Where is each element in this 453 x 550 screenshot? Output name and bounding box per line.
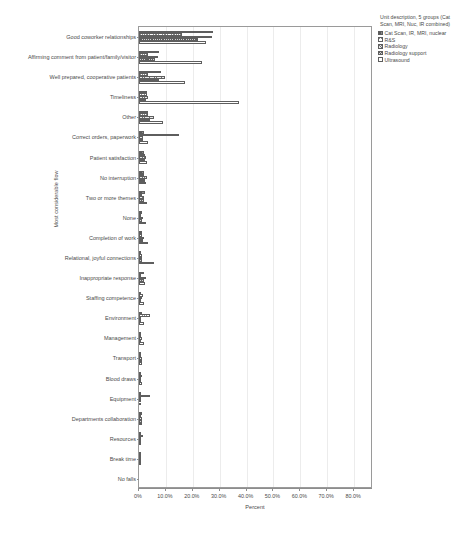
- category-row: Departments collaboration: [139, 409, 371, 429]
- bar-group: [139, 409, 371, 429]
- x-axis-tick-label: 70.0%: [319, 493, 334, 499]
- bar: [139, 342, 144, 345]
- bar: [139, 61, 202, 64]
- category-row: Good coworker relationships: [139, 27, 371, 47]
- bar-group: [139, 228, 371, 248]
- x-axis-tick: [219, 488, 220, 491]
- bar-group: [139, 268, 371, 288]
- bar: [139, 134, 179, 137]
- category-row: No falls: [139, 469, 371, 489]
- category-row: Transport: [139, 348, 371, 368]
- bar: [139, 443, 141, 446]
- bar: [139, 121, 163, 124]
- legend-swatch-icon: [378, 44, 383, 49]
- category-row: Break time: [139, 449, 371, 469]
- y-axis-tick-label: Staffing competence: [12, 295, 136, 302]
- y-axis-tick-label: Relational, joyful connections: [12, 255, 136, 262]
- figure-caption: [8, 538, 308, 548]
- x-axis-tick: [299, 488, 300, 491]
- category-row: Equipment: [139, 389, 371, 409]
- bar-group: [139, 449, 371, 469]
- bar: [139, 41, 206, 44]
- legend-title: Unit description, 5 groups (Cat Scan, MR…: [378, 14, 452, 27]
- bar: [139, 161, 147, 164]
- x-axis-tick-label: 40.0%: [238, 493, 253, 499]
- y-axis-tick-label: No falls: [12, 476, 136, 483]
- legend-item: Cat Scan, IR, MRI, nuclear: [378, 30, 452, 36]
- x-axis-tick: [246, 488, 247, 491]
- legend-item: Radiology: [378, 43, 452, 49]
- bar: [139, 322, 144, 325]
- bar-group: [139, 248, 371, 268]
- y-axis-tick-label: Completion of work: [12, 235, 136, 242]
- bar: [139, 382, 142, 385]
- x-axis-tick-label: 20.0%: [184, 493, 199, 499]
- legend-item: Radiology support: [378, 50, 452, 56]
- bar: [139, 141, 148, 144]
- bar-group: [139, 429, 371, 449]
- legend: Unit description, 5 groups (Cat Scan, MR…: [378, 14, 452, 63]
- y-axis-tick-label: Affirming comment from patient/family/vi…: [12, 54, 136, 61]
- category-row: Resources: [139, 429, 371, 449]
- bar: [139, 403, 141, 406]
- bar-group: [139, 368, 371, 388]
- x-axis: 0%10.0%20.0%30.0%40.0%50.0%60.0%70.0%80.…: [138, 488, 372, 489]
- y-axis-tick-label: Two or more themes: [12, 194, 136, 201]
- bar-group: [139, 469, 371, 489]
- category-row: Well prepared, cooperative patients: [139, 67, 371, 87]
- chart-figure: Most considerable flow Good coworker rel…: [0, 0, 453, 550]
- y-axis-tick-label: Management: [12, 335, 136, 342]
- bar: [139, 463, 141, 466]
- category-row: Management: [139, 328, 371, 348]
- y-axis-tick-label: Other: [12, 114, 136, 121]
- category-row: No interruption: [139, 168, 371, 188]
- category-row: Inappropriate response: [139, 268, 371, 288]
- bar-group: [139, 127, 371, 147]
- bar-group: [139, 67, 371, 87]
- y-axis-tick-label: Correct orders, paperwork: [12, 134, 136, 141]
- legend-item: Ultrasound: [378, 57, 452, 63]
- x-axis-tick-label: 10.0%: [157, 493, 172, 499]
- plot-area: Good coworker relationshipsAffirming com…: [138, 26, 372, 488]
- category-row: Completion of work: [139, 228, 371, 248]
- category-row: Patient satisfaction: [139, 148, 371, 168]
- x-axis-tick: [272, 488, 273, 491]
- bar: [139, 423, 142, 426]
- bar: [139, 282, 145, 285]
- legend-item-label: Cat Scan, IR, MRI, nuclear: [385, 30, 447, 36]
- bar: [139, 262, 154, 265]
- y-axis-tick-label: Environment: [12, 315, 136, 322]
- y-axis-tick-label: Resources: [12, 435, 136, 442]
- legend-items: Cat Scan, IR, MRI, nuclearR&SRadiologyRa…: [378, 30, 452, 62]
- y-axis-tick-label: Well prepared, cooperative patients: [12, 74, 136, 81]
- legend-item-label: R&S: [385, 37, 396, 43]
- category-row: Blood draws: [139, 368, 371, 388]
- bar-group: [139, 188, 371, 208]
- legend-item-label: Ultrasound: [385, 57, 410, 63]
- category-row: Two or more themes: [139, 188, 371, 208]
- y-axis-tick-label: Timeliness: [12, 94, 136, 101]
- category-row: Staffing competence: [139, 288, 371, 308]
- y-axis-tick-label: Break time: [12, 456, 136, 463]
- x-axis-tick: [138, 488, 139, 491]
- legend-item: R&S: [378, 37, 452, 43]
- bar-group: [139, 47, 371, 67]
- y-axis-tick-label: Good coworker relationships: [12, 34, 136, 41]
- bar-group: [139, 168, 371, 188]
- bar-group: [139, 27, 371, 47]
- bar-group: [139, 87, 371, 107]
- y-axis-tick-label: Patient satisfaction: [12, 154, 136, 161]
- x-axis-tick: [165, 488, 166, 491]
- legend-item-label: Radiology support: [385, 50, 427, 56]
- y-axis-tick-label: Equipment: [12, 395, 136, 402]
- bar: [139, 81, 185, 84]
- x-axis-tick-label: 30.0%: [211, 493, 226, 499]
- category-row: None: [139, 208, 371, 228]
- legend-item-label: Radiology: [385, 43, 408, 49]
- category-row: Affirming comment from patient/family/vi…: [139, 47, 371, 67]
- legend-swatch-icon: [378, 57, 383, 62]
- category-row: Other: [139, 107, 371, 127]
- bar-group: [139, 107, 371, 127]
- y-axis-tick-label: Departments collaboration: [12, 415, 136, 422]
- bar-group: [139, 208, 371, 228]
